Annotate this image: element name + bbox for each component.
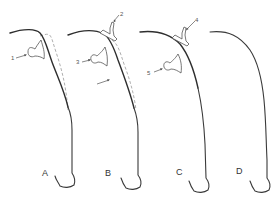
- outline-b-lower: [121, 108, 141, 189]
- outline-b: [68, 31, 134, 108]
- panel-d: D: [210, 32, 270, 193]
- panel-b: 2 3 B: [68, 11, 141, 189]
- outline-c-lower: [189, 88, 209, 192]
- outline-a-lower: [55, 107, 75, 187]
- panel-c: 4 5 C: [140, 17, 209, 192]
- leader-line-4: [187, 21, 195, 29]
- component-shape-1: [28, 40, 44, 59]
- outline-a: [10, 30, 68, 107]
- arrowhead-1: [24, 54, 27, 56]
- panel-label-c: C: [176, 167, 183, 177]
- callout-number-4: 4: [195, 17, 199, 23]
- outline-c: [140, 32, 198, 89]
- panel-a: 1 A: [10, 30, 75, 188]
- callout-number-1: 1: [11, 55, 15, 61]
- panel-label-b: B: [105, 168, 111, 178]
- callout-number-2: 2: [120, 11, 124, 17]
- component-shape-5: [164, 54, 182, 73]
- arrowhead-5: [160, 68, 163, 70]
- panel-label-d: D: [236, 166, 243, 176]
- callout-number-3: 3: [76, 59, 80, 65]
- diagram-figure: 1 A 2 3 B 4: [0, 0, 279, 207]
- dashed-outline-a: [40, 34, 68, 110]
- component-shape-3: [91, 47, 108, 66]
- callout-number-5: 5: [147, 70, 151, 76]
- movement-arrowhead: [107, 79, 110, 81]
- movement-arrow: [97, 80, 109, 84]
- panel-label-a: A: [42, 168, 48, 178]
